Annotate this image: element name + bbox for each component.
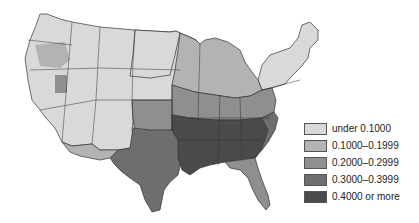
legend-swatch — [304, 140, 327, 152]
legend-label: 0.3000–0.3999 — [332, 174, 399, 185]
us-base — [25, 14, 318, 212]
legend-label: 0.4000 or more — [332, 191, 400, 202]
legend-item: 0.1000–0.1999 — [304, 137, 400, 154]
region-great-lakes — [172, 33, 262, 98]
legend-label: under 0.1000 — [332, 123, 391, 134]
legend-swatch — [304, 123, 327, 135]
region-utah-patch — [55, 75, 67, 93]
region-southern-plains — [132, 100, 172, 132]
region-pacific-northwest-patch — [35, 42, 70, 68]
region-florida — [225, 158, 270, 210]
legend-item: 0.4000 or more — [304, 188, 400, 205]
legend-swatch — [304, 191, 327, 203]
legend-item: under 0.1000 — [304, 120, 400, 137]
legend-item: 0.3000–0.3999 — [304, 171, 400, 188]
map-legend: under 0.1000 0.1000–0.1999 0.2000–0.2999… — [304, 120, 400, 205]
region-northeast — [258, 22, 318, 90]
legend-label: 0.1000–0.1999 — [332, 140, 399, 151]
legend-swatch — [304, 157, 327, 169]
legend-swatch — [304, 174, 327, 186]
legend-item: 0.2000–0.2999 — [304, 154, 400, 171]
legend-label: 0.2000–0.2999 — [332, 157, 399, 168]
